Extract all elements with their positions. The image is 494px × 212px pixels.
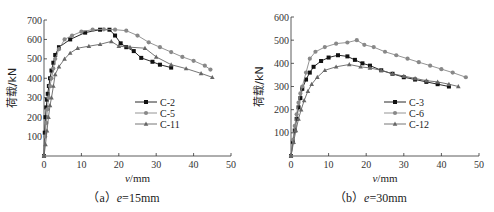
- data-point: [57, 47, 61, 51]
- data-point: [355, 38, 359, 42]
- x-axis-label: v/mm: [125, 172, 151, 184]
- series-line: [291, 40, 466, 156]
- legend-item-c-3: C-3: [384, 97, 424, 108]
- data-point: [347, 62, 352, 66]
- legend-marker: [144, 100, 148, 104]
- y-axis-label: 荷载/kN: [6, 68, 19, 108]
- y-axis-label: 荷载/kN: [253, 66, 266, 106]
- data-point: [353, 58, 357, 62]
- data-point: [372, 45, 376, 49]
- data-point: [313, 50, 317, 54]
- data-point: [109, 39, 114, 43]
- y-tick-label: 300: [27, 92, 42, 103]
- legend-label: C-2: [160, 97, 175, 108]
- chart-b-plot: 01020304050100200300400500600v/mm荷载/kNC-…: [247, 0, 494, 212]
- data-point: [203, 64, 207, 68]
- y-tick-label: 500: [274, 35, 289, 46]
- y-tick-label: 400: [274, 58, 289, 69]
- data-point: [439, 67, 443, 71]
- y-tick-label: 300: [274, 81, 289, 92]
- data-point: [302, 98, 307, 102]
- y-tick-label: 600: [27, 34, 42, 45]
- caption-prefix: （a）: [87, 191, 116, 205]
- x-tick-label: 10: [324, 159, 334, 170]
- x-tick-label: 10: [76, 159, 86, 170]
- data-point: [158, 45, 162, 49]
- data-point: [334, 42, 338, 46]
- legend-label: C-12: [409, 119, 429, 130]
- legend-item-c-12: C-12: [384, 119, 429, 130]
- tick-labels: 01020304050100200300400500600: [274, 12, 484, 171]
- x-axis-label: v/mm: [372, 172, 398, 184]
- chart-panel-a: 01020304050100200300400500600700v/mm荷载/k…: [0, 0, 247, 212]
- x-tick-label: 0: [289, 159, 294, 170]
- x-tick-label: 30: [399, 159, 409, 170]
- data-point: [113, 28, 117, 32]
- data-point: [295, 112, 299, 116]
- caption-rest: =15mm: [122, 191, 159, 205]
- tick-labels: 01020304050100200300400500600700: [27, 15, 236, 171]
- data-point: [428, 64, 432, 68]
- data-point: [336, 53, 340, 57]
- x-tick-label: 0: [42, 159, 47, 170]
- data-point: [169, 50, 173, 54]
- data-point: [306, 89, 311, 93]
- data-point: [327, 56, 331, 60]
- y-tick-label: 200: [274, 104, 289, 115]
- data-point: [394, 53, 398, 57]
- x-tick-label: 50: [226, 159, 236, 170]
- x-tick-label: 20: [361, 159, 371, 170]
- chart-b-caption: （b）e=30mm: [247, 188, 494, 206]
- legend-item-c-6: C-6: [384, 108, 424, 119]
- data-point: [124, 29, 128, 33]
- series-c-12: [289, 62, 461, 158]
- data-point: [68, 51, 73, 55]
- y-tick-label: 500: [27, 53, 42, 64]
- data-point: [312, 65, 316, 69]
- data-point: [308, 71, 312, 75]
- legend-item-c-2: C-2: [135, 97, 175, 108]
- y-tick-label: 600: [274, 12, 289, 23]
- data-point: [298, 91, 302, 95]
- series-c-6: [289, 38, 468, 158]
- data-point: [304, 71, 308, 75]
- data-point: [45, 107, 49, 111]
- data-point: [91, 28, 95, 32]
- data-point: [345, 40, 349, 44]
- data-point: [300, 84, 304, 88]
- data-point: [308, 57, 312, 61]
- chart-a-caption: （a）e=15mm: [0, 188, 247, 206]
- data-point: [51, 66, 55, 70]
- legend-label: C-3: [409, 97, 424, 108]
- series-c-11: [42, 39, 215, 158]
- data-point: [53, 72, 58, 76]
- x-tick-label: 50: [474, 159, 484, 170]
- data-point: [79, 30, 83, 34]
- data-point: [180, 55, 184, 59]
- data-point: [49, 76, 53, 80]
- data-point: [360, 61, 364, 65]
- data-point: [169, 62, 174, 66]
- data-point: [405, 57, 409, 61]
- x-tick-label: 40: [189, 159, 199, 170]
- y-tick-label: 200: [27, 112, 42, 123]
- data-point: [323, 45, 327, 49]
- data-point: [135, 33, 139, 37]
- data-point: [132, 49, 136, 53]
- y-tick-label: 400: [27, 73, 42, 84]
- data-point: [345, 54, 349, 58]
- legend-marker: [393, 100, 397, 104]
- y-tick-label: 700: [27, 15, 42, 26]
- data-point: [383, 50, 387, 54]
- data-point: [192, 59, 196, 63]
- data-point: [70, 33, 74, 37]
- chart-panel-b: 01020304050100200300400500600v/mm荷载/kNC-…: [247, 0, 494, 212]
- data-point: [53, 57, 57, 61]
- data-point: [147, 40, 151, 44]
- x-tick-label: 40: [436, 159, 446, 170]
- data-point: [319, 59, 323, 63]
- data-point: [158, 63, 162, 67]
- data-point: [451, 71, 455, 75]
- data-point: [150, 60, 154, 64]
- data-point: [139, 56, 143, 60]
